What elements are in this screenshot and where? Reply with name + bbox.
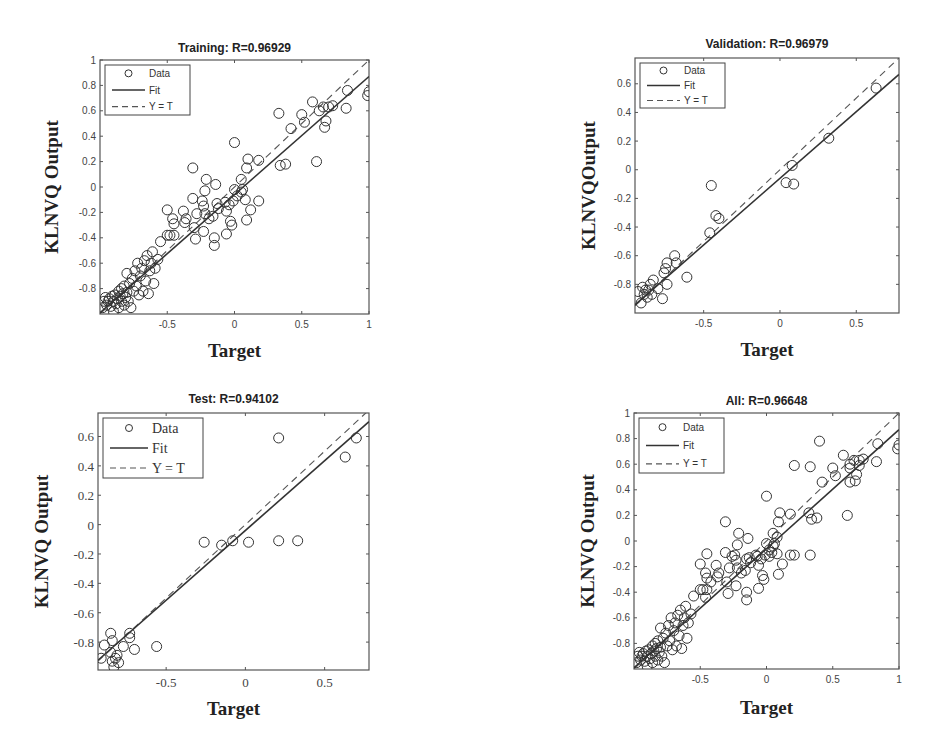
- y-tick-label: -0.6: [613, 612, 631, 623]
- y-tick-label: -0.8: [79, 283, 97, 294]
- y-tick-label: 0.2: [616, 510, 630, 521]
- panel-title: All: R=0.96648: [726, 394, 808, 408]
- x-tick-label: -0.5: [156, 675, 177, 690]
- x-tick-label: 0.5: [826, 674, 840, 685]
- x-tick-label: -0.5: [159, 319, 177, 330]
- legend: DataFitY = T: [103, 418, 203, 478]
- y-tick-label: 0.2: [78, 488, 94, 503]
- y-tick-label: -0.4: [73, 576, 94, 591]
- x-tick-label: 0: [242, 675, 249, 690]
- legend-label: Fit: [683, 440, 694, 451]
- y-tick-label: -0.4: [79, 232, 97, 243]
- y-tick-label: -0.2: [613, 561, 631, 572]
- y-tick-label: -0.6: [614, 250, 632, 261]
- y-tick-label: 0: [624, 536, 630, 547]
- y-tick-label: 0: [90, 182, 96, 193]
- y-tick-label: 1: [624, 408, 630, 419]
- legend-label: Data: [152, 421, 179, 436]
- legend: DataFitY = T: [105, 65, 190, 115]
- y-tick-label: -0.2: [614, 193, 632, 204]
- legend-label: Fit: [152, 441, 168, 456]
- x-axis-label: Target: [740, 697, 794, 718]
- x-tick-label: 0: [232, 319, 238, 330]
- legend-label: Y = T: [684, 95, 708, 106]
- x-tick-label: -0.5: [695, 318, 713, 329]
- x-tick-label: 0.5: [849, 318, 863, 329]
- x-tick-label: 1: [896, 674, 902, 685]
- legend-label: Data: [149, 68, 171, 79]
- chart-panel-training: Training: R=0.96929-0.500.51-0.8-0.6-0.4…: [41, 41, 374, 361]
- y-tick-label: 0.2: [82, 156, 96, 167]
- chart-panel-validation: Validation: R=0.96979-0.500.5-0.8-0.6-0.…: [578, 37, 899, 360]
- y-tick-label: -0.6: [73, 606, 94, 621]
- y-tick-label: -0.8: [613, 638, 631, 649]
- y-tick-label: 0: [625, 164, 631, 175]
- panel-title: Training: R=0.96929: [178, 41, 291, 55]
- y-tick-label: 0.4: [617, 107, 631, 118]
- x-tick-label: 0: [764, 674, 770, 685]
- x-axis-label: Target: [207, 698, 261, 719]
- y-tick-label: 0: [88, 518, 95, 533]
- y-tick-label: -0.2: [73, 547, 94, 562]
- x-tick-label: 0.5: [295, 319, 309, 330]
- figure-canvas: Training: R=0.96929-0.500.51-0.8-0.6-0.4…: [0, 0, 946, 746]
- x-tick-label: 0.5: [317, 675, 333, 690]
- y-tick-label: -0.8: [614, 279, 632, 290]
- y-axis-label: KLNVQ Output: [41, 120, 62, 254]
- y-tick-label: -0.4: [614, 222, 632, 233]
- y-tick-label: 0.4: [82, 131, 96, 142]
- y-tick-label: -0.4: [613, 587, 631, 598]
- legend-label: Y = T: [149, 101, 173, 112]
- x-axis-label: Target: [740, 339, 794, 360]
- y-axis-label: KLNVQOutput: [578, 120, 599, 249]
- y-tick-label: 0.6: [616, 459, 630, 470]
- y-tick-label: 0.2: [617, 136, 631, 147]
- legend-label: Fit: [149, 85, 160, 96]
- y-tick-label: 0.4: [616, 484, 630, 495]
- y-tick-label: 1: [90, 55, 96, 66]
- y-tick-label: -0.6: [79, 258, 97, 269]
- legend-label: Data: [683, 422, 705, 433]
- legend-label: Fit: [684, 80, 695, 91]
- y-tick-label: 0.6: [617, 78, 631, 89]
- legend-label: Y = T: [152, 461, 185, 476]
- chart-panel-test: Test: R=0.94102-0.500.5-0.8-0.6-0.4-0.20…: [31, 392, 369, 719]
- y-tick-label: 0.8: [82, 80, 96, 91]
- legend-label: Data: [684, 65, 706, 76]
- regression-figure: Training: R=0.96929-0.500.51-0.8-0.6-0.4…: [0, 0, 946, 746]
- panel-title: Validation: R=0.96979: [705, 37, 828, 51]
- y-tick-label: 0.4: [78, 459, 95, 474]
- x-tick-label: -0.5: [692, 674, 710, 685]
- y-tick-label: 0.6: [78, 429, 95, 444]
- x-axis-label: Target: [208, 340, 262, 361]
- y-tick-label: 0.8: [616, 433, 630, 444]
- legend: DataFitY = T: [639, 418, 724, 473]
- legend: DataFitY = T: [640, 63, 725, 108]
- y-tick-label: 0.6: [82, 105, 96, 116]
- y-tick-label: -0.2: [79, 207, 97, 218]
- x-tick-label: 0: [777, 318, 783, 329]
- y-axis-label: KLNVQ Output: [577, 474, 598, 608]
- chart-panel-all: All: R=0.96648-0.500.51-0.8-0.6-0.4-0.20…: [577, 394, 904, 718]
- panel-title: Test: R=0.94102: [188, 392, 278, 406]
- y-axis-label: KLNVQ Output: [31, 474, 52, 608]
- y-tick-label: -0.8: [73, 635, 94, 650]
- legend-label: Y = T: [683, 458, 707, 469]
- x-tick-label: 1: [366, 319, 372, 330]
